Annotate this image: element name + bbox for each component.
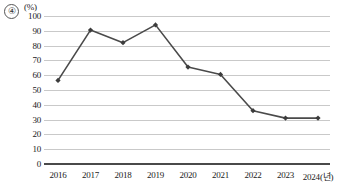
- y-axis-labels: 0102030405060708090100: [0, 16, 41, 164]
- y-axis-tick-label: 60: [1, 70, 41, 80]
- series-markers: [55, 22, 320, 120]
- plot-area: [44, 16, 330, 164]
- x-axis-tick-label: 2016: [49, 170, 66, 180]
- y-axis-tick-label: 90: [1, 26, 41, 36]
- y-axis-tick-label: 0: [1, 159, 41, 169]
- data-point-marker: [283, 116, 288, 121]
- y-axis-tick-label: 70: [1, 55, 41, 65]
- chart-figure: ④ (%) 0102030405060708090100 20162017201…: [0, 0, 341, 186]
- data-point-marker: [315, 116, 320, 121]
- x-axis-tick-label: 2022: [244, 170, 261, 180]
- x-axis-tick-label: 2023: [277, 170, 294, 180]
- y-axis-tick-label: 40: [1, 100, 41, 110]
- y-axis-tick-label: 50: [1, 85, 41, 95]
- x-axis-tick-label: 2021: [212, 170, 229, 180]
- x-axis-tick-label: 2024(년): [303, 170, 334, 183]
- x-axis-tick-label: 2020: [179, 170, 196, 180]
- y-axis-tick-label: 30: [1, 115, 41, 125]
- y-axis-tick-label: 10: [1, 144, 41, 154]
- x-axis-tick-label: 2017: [82, 170, 99, 180]
- series-polyline: [58, 25, 318, 118]
- x-axis-labels: 201620172018201920202021202220232024(년): [44, 170, 330, 184]
- y-axis-tick-label: 20: [1, 129, 41, 139]
- y-axis-tick-label: 100: [1, 11, 41, 21]
- x-axis-tick-label: 2019: [147, 170, 164, 180]
- y-axis-tick-label: 80: [1, 41, 41, 51]
- line-series: [44, 16, 330, 164]
- x-axis-tick-label: 2018: [114, 170, 131, 180]
